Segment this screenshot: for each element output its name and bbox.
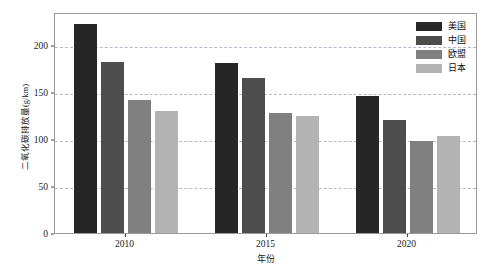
bar [74,24,97,233]
bar [410,141,433,233]
x-tick-label: 2020 [397,239,416,249]
x-axis-title: 年份 [54,252,477,265]
bar [128,100,151,233]
y-axis-ticks: 050100150200 [0,0,54,280]
x-tick-label: 2015 [256,239,275,249]
bar [356,96,379,233]
legend-swatch-icon [416,22,442,31]
bar [383,120,406,233]
bar [296,116,319,233]
x-tick-mark [266,234,267,237]
bar [155,111,178,233]
y-tick-label: 50 [39,182,49,192]
legend-label: 美国 [448,22,466,31]
legend-swatch-icon [416,36,442,45]
chart-figure: 二氧化碳排放量(g/km) 050100150200 美国中国欧盟日本 2010… [0,0,498,280]
y-tick-label: 100 [34,135,48,145]
legend-label: 欧盟 [448,50,466,59]
bar [101,62,124,233]
legend-item[interactable]: 美国 [416,21,466,32]
y-tick-label: 200 [34,41,48,51]
x-tick-mark [125,234,126,237]
bar [215,63,238,233]
chart-legend: 美国中国欧盟日本 [416,21,466,74]
legend-label: 中国 [448,36,466,45]
legend-swatch-icon [416,50,442,59]
y-tick-label: 0 [43,229,48,239]
x-tick-mark [407,234,408,237]
legend-item[interactable]: 日本 [416,63,466,74]
bar-series-layer [55,14,476,233]
legend-label: 日本 [448,64,466,73]
bar [242,78,265,233]
y-tick-label: 150 [34,88,48,98]
bar [437,136,460,233]
plot-area: 美国中国欧盟日本 [54,13,477,234]
legend-item[interactable]: 中国 [416,35,466,46]
bar [269,113,292,233]
legend-swatch-icon [416,64,442,73]
x-tick-label: 2010 [115,239,134,249]
legend-item[interactable]: 欧盟 [416,49,466,60]
x-axis-ticks: 201020152020 [54,234,477,254]
